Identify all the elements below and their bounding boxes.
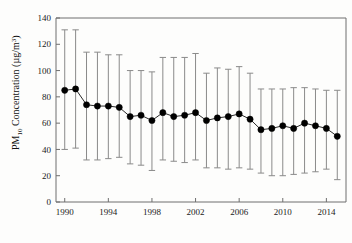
x-tick-label: 2002: [187, 207, 205, 217]
y-tick-label: 140: [38, 13, 52, 23]
data-point-marker: [83, 102, 89, 108]
y-axis-title: PM10 Concentration (µg/m3): [10, 35, 25, 150]
x-axis-ticks: 1990199419982002200620102014: [56, 198, 336, 217]
data-point-marker: [182, 112, 188, 118]
x-tick-label: 1994: [99, 207, 118, 217]
x-tick-label: 2014: [317, 207, 336, 217]
y-tick-label: 120: [38, 39, 52, 49]
y-tick-label: 60: [42, 118, 52, 128]
data-point-marker: [236, 111, 242, 117]
x-tick-label: 2010: [274, 207, 293, 217]
data-point-marker: [301, 120, 307, 126]
y-tick-label: 100: [38, 66, 52, 76]
x-tick-label: 2006: [230, 207, 249, 217]
data-point-marker: [94, 103, 100, 109]
x-tick-label: 1998: [143, 207, 162, 217]
data-point-marker: [171, 113, 177, 119]
data-point-marker: [247, 116, 253, 122]
data-point-marker: [312, 123, 318, 129]
data-point-marker: [138, 112, 144, 118]
data-markers-group: [62, 86, 341, 140]
data-point-marker: [269, 125, 275, 131]
data-point-marker: [73, 86, 79, 92]
data-point-marker: [105, 103, 111, 109]
pm10-timeseries-chart: PM10 Concentration (µg/m3) 0204060801001…: [0, 0, 352, 243]
data-point-marker: [323, 125, 329, 131]
y-tick-label: 20: [42, 171, 52, 181]
y-tick-label: 40: [42, 145, 52, 155]
chart-figure: PM10 Concentration (µg/m3) 0204060801001…: [0, 0, 352, 243]
y-axis-title-tail: ): [10, 35, 22, 38]
error-bars-group: [62, 30, 341, 180]
data-point-marker: [127, 113, 133, 119]
data-point-marker: [160, 110, 166, 116]
y-tick-label: 0: [47, 197, 52, 207]
data-point-marker: [116, 104, 122, 110]
svg-text:PM10 Concentration (µg/m3): PM10 Concentration (µg/m3): [10, 35, 25, 150]
data-point-marker: [149, 117, 155, 123]
data-point-marker: [334, 133, 340, 139]
data-point-marker: [203, 117, 209, 123]
data-point-marker: [214, 115, 220, 121]
data-point-marker: [280, 123, 286, 129]
data-point-marker: [291, 125, 297, 131]
data-point-marker: [225, 113, 231, 119]
y-axis-ticks: 020406080100120140: [38, 13, 61, 207]
data-point-marker: [192, 110, 198, 116]
x-tick-label: 1990: [56, 207, 75, 217]
data-point-marker: [62, 87, 68, 93]
y-tick-label: 80: [42, 92, 52, 102]
y-axis-title-prefix: PM: [10, 135, 21, 150]
data-point-marker: [258, 127, 264, 133]
y-axis-title-suffix: Concentration (µg/m: [10, 42, 22, 129]
axis-frame: [56, 18, 346, 202]
plot-frame: [56, 18, 346, 202]
